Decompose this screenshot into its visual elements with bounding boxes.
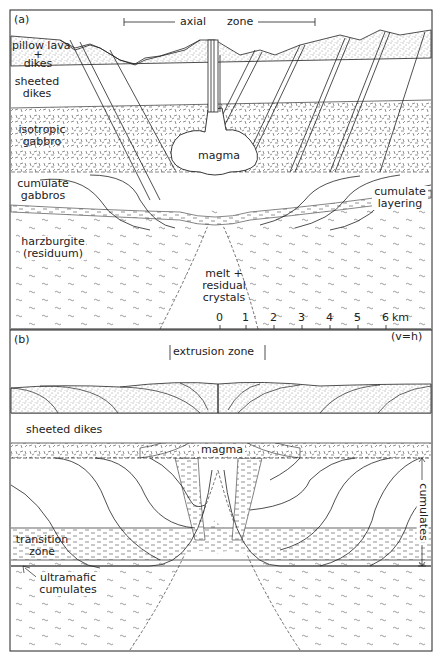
ophiolite-cross-section-diagram [0, 0, 439, 661]
sheeted-dikes-label-b: sheeted dikes [26, 424, 102, 436]
extrusion-zone-label: extrusion zone [173, 346, 254, 358]
cumulate-layering-label: cumulate layering [372, 186, 428, 210]
scale-tick-1: 1 [242, 312, 249, 324]
sheeted-dikes-label: sheeted dikes [14, 76, 60, 100]
scale-tick-4: 4 [326, 312, 333, 324]
isotropic-gabbro-label: isotropic gabbro [14, 124, 70, 148]
axial-zone-label-left: axial [180, 16, 206, 28]
cumulate-gabbros-label: cumulate gabbros [12, 178, 74, 202]
melt-residual-crystals-label: melt + residual crystals [196, 268, 252, 304]
axial-zone-label-right: zone [227, 16, 253, 28]
scale-tick-5: 5 [354, 312, 361, 324]
scale-tick-0: 0 [216, 312, 223, 324]
harzburgite-label: harzburgite (residuum) [20, 236, 86, 260]
magma-label-b: magma [199, 444, 245, 456]
scale-unit: km [392, 312, 409, 324]
transition-zone-label: transition zone [14, 534, 70, 558]
cumulates-bracket-label: cumulates [417, 481, 429, 542]
scale-tick-6: 6 [382, 312, 389, 324]
panel-b-label: (b) [14, 334, 30, 346]
scale-ratio: (v=h) [391, 331, 422, 343]
pillow-lava-label: pillow lava + dikes [12, 40, 64, 70]
ultramafic-cumulates-label: ultramafic cumulates [36, 572, 100, 596]
panel-a-label: (a) [14, 14, 29, 26]
scale-tick-3: 3 [298, 312, 305, 324]
magma-label-a: magma [198, 150, 240, 162]
scale-tick-2: 2 [270, 312, 277, 324]
